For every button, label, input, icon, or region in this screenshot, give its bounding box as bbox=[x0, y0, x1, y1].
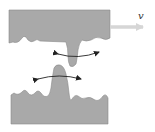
friction-diagram bbox=[0, 0, 155, 132]
bottom-surface bbox=[11, 65, 108, 124]
velocity-label: v bbox=[138, 10, 144, 21]
top-surface bbox=[9, 10, 110, 67]
upper-double-arrow bbox=[58, 52, 99, 57]
